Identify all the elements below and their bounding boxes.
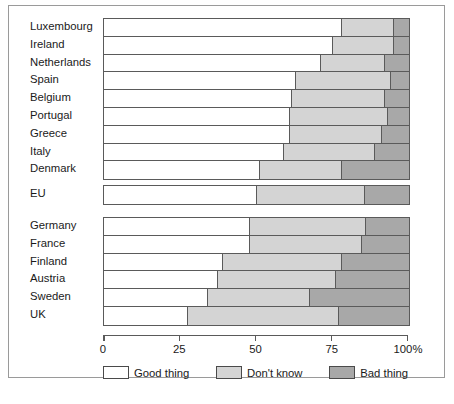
bar-row (104, 144, 409, 162)
x-axis-tick-label: 100% (394, 343, 423, 355)
bar-segment-dont-know (188, 307, 339, 325)
category-label-sweden: Sweden (30, 290, 71, 302)
bar-segment-good (104, 37, 333, 54)
bar-row (104, 90, 409, 108)
bar-segment-bad (388, 108, 409, 125)
bar-segment-dont-know (321, 55, 385, 72)
bar-row (104, 126, 409, 144)
bar-row (104, 254, 409, 272)
legend-swatch (103, 366, 129, 379)
category-label-uk: UK (30, 308, 46, 320)
x-axis-tick (104, 336, 105, 341)
bar-segment-dont-know (260, 161, 342, 179)
legend-label: Bad thing (360, 367, 408, 379)
x-axis-tick-label: 25 (173, 343, 186, 355)
bar-row (104, 108, 409, 126)
bar-segment-bad (385, 90, 409, 107)
legend-swatch (329, 366, 355, 379)
bar-segment-bad (336, 271, 409, 288)
bar-segment-dont-know (296, 72, 391, 89)
bar-segment-bad (394, 37, 409, 54)
x-axis-tick-label: 0 (100, 343, 106, 355)
bar-segment-good (104, 19, 342, 36)
category-label-france: France (30, 237, 65, 249)
bar-segment-good (104, 218, 250, 235)
bar-row (104, 37, 409, 55)
x-axis-tick (179, 336, 180, 341)
bar-segment-bad (391, 72, 409, 89)
bar-segment-good (104, 161, 260, 179)
category-label-ireland: Ireland (30, 38, 65, 50)
category-label-luxembourg: Luxembourg (30, 20, 93, 32)
legend-label: Good thing (134, 367, 189, 379)
bar-group-below-eu-average (103, 217, 410, 326)
chart-frame: LuxembourgIrelandNetherlandsSpainBelgium… (8, 5, 445, 378)
bar-group-above-eu-average (103, 18, 410, 180)
chart-legend: Good thingDon't knowBad thing (103, 364, 408, 381)
bar-segment-dont-know (208, 289, 310, 306)
bar-segment-good (104, 289, 208, 306)
bar-segment-dont-know (218, 271, 335, 288)
bar-segment-bad (342, 254, 409, 271)
bar-segment-good (104, 144, 284, 161)
legend-label: Don't know (247, 367, 303, 379)
bar-segment-bad (342, 161, 409, 179)
bar-segment-good (104, 254, 223, 271)
x-axis-tick-label: 50 (249, 343, 262, 355)
category-label-finland: Finland (30, 255, 67, 267)
x-axis (103, 335, 408, 341)
category-label-eu: EU (30, 187, 46, 199)
bar-segment-good (104, 236, 250, 253)
bar-segment-dont-know (257, 186, 365, 204)
legend-item-don-t-know: Don't know (216, 366, 303, 379)
x-axis-tick (407, 336, 408, 341)
bar-segment-dont-know (333, 37, 394, 54)
category-label-italy: Italy (30, 145, 51, 157)
bar-segment-dont-know (284, 144, 376, 161)
category-label-denmark: Denmark (30, 162, 76, 174)
bar-segment-good (104, 72, 296, 89)
bar-row (104, 161, 409, 179)
bar-segment-good (104, 90, 292, 107)
bar-segment-dont-know (290, 108, 388, 125)
bar-segment-good (104, 271, 218, 288)
bar-row (104, 186, 409, 204)
bar-row (104, 218, 409, 236)
bar-row (104, 271, 409, 289)
bar-segment-bad (366, 218, 409, 235)
bar-segment-bad (385, 55, 409, 72)
bar-segment-good (104, 55, 321, 72)
bar-segment-good (104, 126, 290, 143)
bar-row (104, 72, 409, 90)
x-axis-tick-label: 75 (325, 343, 338, 355)
category-label-netherlands: Netherlands (30, 56, 91, 68)
bar-segment-bad (310, 289, 409, 306)
bar-segment-bad (394, 19, 409, 36)
bar-segment-dont-know (342, 19, 394, 36)
category-label-greece: Greece (30, 127, 67, 139)
bar-segment-good (104, 186, 257, 204)
bar-group-eu-average (103, 185, 410, 205)
bar-segment-good (104, 108, 290, 125)
bar-row (104, 307, 409, 325)
category-label-austria: Austria (30, 272, 65, 284)
bar-segment-dont-know (292, 90, 385, 107)
category-label-belgium: Belgium (30, 91, 71, 103)
bar-segment-bad (382, 126, 409, 143)
bar-segment-bad (365, 186, 409, 204)
legend-swatch (216, 366, 242, 379)
bar-row (104, 289, 409, 307)
legend-item-bad-thing: Bad thing (329, 366, 408, 379)
bar-segment-bad (362, 236, 409, 253)
bar-segment-dont-know (250, 236, 361, 253)
bar-row (104, 19, 409, 37)
bar-segment-good (104, 307, 188, 325)
bar-row (104, 55, 409, 73)
bar-segment-dont-know (223, 254, 342, 271)
category-label-spain: Spain (30, 73, 59, 85)
x-axis-tick (255, 336, 256, 341)
bar-row (104, 236, 409, 254)
legend-item-good-thing: Good thing (103, 366, 189, 379)
category-label-portugal: Portugal (30, 109, 72, 121)
bar-segment-dont-know (250, 218, 366, 235)
